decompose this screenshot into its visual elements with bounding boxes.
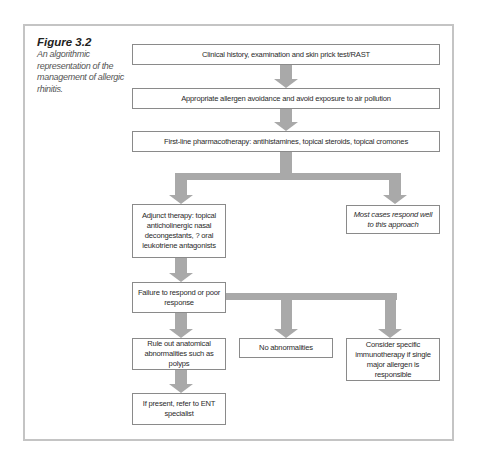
arrow-down-icon [383,195,407,204]
node-allergen-avoidance: Appropriate allergen avoidance and avoid… [132,88,440,109]
caption-line-1: An algorithmic [37,49,132,61]
arrow-down-icon [169,273,193,282]
arrow-shaft [175,313,187,329]
arrow-shaft [385,293,396,329]
node-rule-out: Rule out anatomical abnormalities such a… [132,338,226,370]
figure-label: Figure 3.2 [37,36,132,49]
arrow-shaft [280,65,292,79]
node-most-cases: Most cases respond well to this approach [346,205,440,234]
node-no-abnormalities: No abnormalities [239,338,333,358]
branch-horizontal [175,173,401,180]
arrow-shaft [280,109,292,122]
caption-line-2: representation of the [37,61,132,73]
caption-line-3: management of allergic [37,72,132,84]
arrow-shaft [281,293,292,329]
arrow-down-icon [378,329,402,338]
node-first-line: First-line pharmacotherapy: antihistamin… [132,131,440,152]
node-ent-referral: If present, refer to ENT specialist [132,393,226,425]
node-immunotherapy: Consider specific immunotherapy if singl… [346,338,440,381]
node-failure: Failure to respond or poor response [132,282,226,313]
caption-line-4: rhinitis. [37,84,132,96]
arrow-down-icon [274,329,298,338]
arrow-down-icon [169,195,193,204]
arrow-shaft [389,173,401,195]
arrow-down-icon [274,122,298,131]
arrow-shaft [175,370,187,384]
node-adjunct-therapy: Adjunct therapy: topical anticholinergic… [132,204,226,258]
arrow-down-icon [169,384,193,393]
arrow-down-icon [169,329,193,338]
node-clinical-history: Clinical history, examination and skin p… [132,44,440,65]
arrow-shaft [175,258,187,273]
arrow-shaft [175,173,187,195]
figure-caption: Figure 3.2 An algorithmic representation… [37,36,132,95]
branch-horizontal [226,293,397,300]
arrow-down-icon [274,79,298,88]
